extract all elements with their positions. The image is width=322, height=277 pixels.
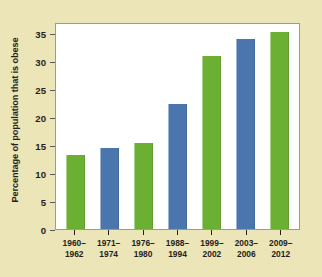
bar-slot xyxy=(92,24,126,229)
x-axis-tick-mark xyxy=(246,230,247,235)
plot-inner xyxy=(56,24,299,229)
x-axis-ticks xyxy=(55,230,300,236)
x-axis-tick-label-line1: 1960– xyxy=(63,238,86,248)
y-axis-tick-label: 15 xyxy=(35,141,46,152)
x-axis-tick-label-line1: 1976– xyxy=(131,238,154,248)
x-axis-tick-label: 2009–2012 xyxy=(264,238,298,259)
y-axis-tick-mark xyxy=(50,230,55,231)
bar-slot xyxy=(160,24,194,229)
x-axis-tick-label-line2: 1994 xyxy=(160,249,194,260)
y-axis-tick-label: 5 xyxy=(41,197,46,208)
bar xyxy=(66,155,85,229)
bar-slot xyxy=(58,24,92,229)
x-axis-tick-labels: 1960–19621971–19741976–19801988–19941999… xyxy=(55,238,300,259)
x-axis-tick-label-line2: 2012 xyxy=(264,249,298,260)
x-axis-tick-slot xyxy=(160,230,194,236)
y-axis-tick-mark xyxy=(50,146,55,147)
x-axis-tick-mark xyxy=(108,230,109,235)
x-axis-tick-mark xyxy=(74,230,75,235)
plot-area xyxy=(55,23,300,230)
y-axis-tick-labels: 05101520253035 xyxy=(24,0,50,277)
x-axis-tick-label: 2003–2006 xyxy=(229,238,263,259)
x-axis-tick-label-line2: 1974 xyxy=(91,249,125,260)
x-axis-tick-label: 1960–1962 xyxy=(57,238,91,259)
x-axis-tick-label: 1976–1980 xyxy=(126,238,160,259)
x-axis-tick-label-line2: 2002 xyxy=(195,249,229,260)
x-axis-tick-slot xyxy=(195,230,229,236)
bar xyxy=(270,32,289,229)
bar-slot xyxy=(195,24,229,229)
y-axis-tick-mark xyxy=(50,62,55,63)
bar xyxy=(236,39,255,229)
x-axis-tick-slot xyxy=(57,230,91,236)
x-axis-tick-label-line1: 1999– xyxy=(200,238,223,248)
x-axis-tick-label: 1988–1994 xyxy=(160,238,194,259)
y-axis-tick-mark xyxy=(50,202,55,203)
x-axis-tick-slot xyxy=(264,230,298,236)
x-axis-tick-slot xyxy=(126,230,160,236)
y-axis-tick-label: 30 xyxy=(35,57,46,68)
y-axis-tick-mark xyxy=(50,118,55,119)
y-axis-title: Percentage of population that is obese xyxy=(6,0,24,240)
y-axis-tick-label: 20 xyxy=(35,113,46,124)
bar-slot xyxy=(229,24,263,229)
y-axis-tick-label: 0 xyxy=(41,225,46,236)
x-axis-tick-label-line2: 2006 xyxy=(229,249,263,260)
x-axis-tick-label-line1: 1988– xyxy=(166,238,189,248)
chart-figure: Percentage of population that is obese 0… xyxy=(0,0,322,277)
bar-slot xyxy=(126,24,160,229)
x-axis-tick-label-line1: 2009– xyxy=(269,238,292,248)
bar-slot xyxy=(263,24,297,229)
y-axis-tick-mark xyxy=(50,174,55,175)
y-axis-tick-mark xyxy=(50,34,55,35)
x-axis-tick-mark xyxy=(280,230,281,235)
x-axis-tick-label: 1971–1974 xyxy=(91,238,125,259)
x-axis-tick-slot xyxy=(229,230,263,236)
x-axis-tick-mark xyxy=(143,230,144,235)
x-axis-tick-label: 1999–2002 xyxy=(195,238,229,259)
bar-series xyxy=(56,24,299,229)
x-axis-tick-mark xyxy=(211,230,212,235)
x-axis-tick-label-line2: 1980 xyxy=(126,249,160,260)
x-axis-tick-slot xyxy=(91,230,125,236)
x-axis-tick-label-line1: 1971– xyxy=(97,238,120,248)
bar xyxy=(168,104,187,229)
y-axis-tick-mark xyxy=(50,90,55,91)
x-axis-tick-label-line2: 1962 xyxy=(57,249,91,260)
y-axis-tick-label: 25 xyxy=(35,85,46,96)
x-axis-tick-mark xyxy=(177,230,178,235)
y-axis-tick-label: 10 xyxy=(35,169,46,180)
y-axis-title-text: Percentage of population that is obese xyxy=(10,37,20,202)
bar xyxy=(202,56,221,229)
bar xyxy=(134,143,153,229)
x-axis-tick-label-line1: 2003– xyxy=(235,238,258,248)
y-axis-tick-label: 35 xyxy=(35,29,46,40)
bar xyxy=(100,148,119,229)
